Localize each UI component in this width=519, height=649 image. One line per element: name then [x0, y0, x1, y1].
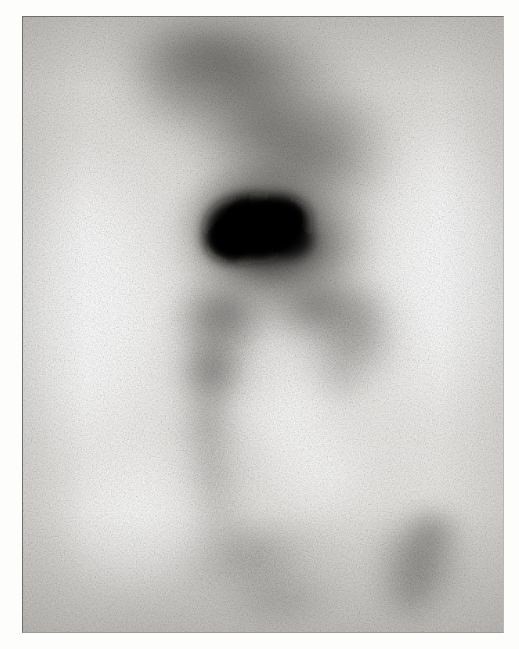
region-lower-right-mottled-focus — [368, 500, 472, 631]
hotspot-core-solid — [212, 200, 304, 257]
region-lower-central-faint-trail — [174, 481, 345, 632]
region-left-photopenic-field — [23, 142, 170, 471]
region-mid-lower-cold-field — [272, 427, 372, 515]
count-speckle-texture — [23, 17, 503, 632]
scan-viewport: planar nuclear medicine scintigram, gray… — [0, 0, 519, 649]
region-inter-branch-notch — [234, 354, 342, 478]
plate-edge-vignette — [23, 17, 503, 632]
film-grain-texture — [23, 17, 503, 632]
region-left-descending-branch — [160, 268, 283, 519]
photopenic-fields — [23, 107, 503, 603]
region-upper-diagonal-uptake-band — [108, 17, 407, 226]
region-band-to-hotspot-connector — [170, 144, 344, 265]
region-right-photopenic-field — [366, 107, 503, 426]
region-right-descending-branch — [248, 264, 417, 415]
region-hotspot-halo — [165, 161, 388, 328]
plate-base-wash — [23, 17, 503, 632]
region-lower-left-cold-field — [55, 428, 210, 603]
region-central-focal-hotspot — [202, 192, 316, 265]
scintigraphy-image-plate — [22, 16, 504, 633]
uptake-intensity-map — [23, 17, 503, 632]
